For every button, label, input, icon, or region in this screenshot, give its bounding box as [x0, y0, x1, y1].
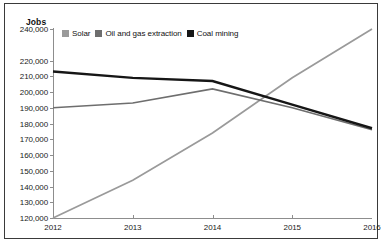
chart-canvas: Jobs 240,000220,000210,000200,000190,000…	[0, 0, 386, 245]
series-line-oil-and-gas-extraction	[53, 89, 372, 130]
series-line-solar	[53, 29, 372, 218]
plot-area	[0, 0, 386, 245]
series-line-coal-mining	[53, 72, 372, 129]
